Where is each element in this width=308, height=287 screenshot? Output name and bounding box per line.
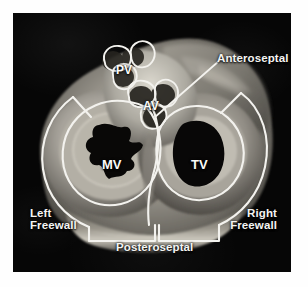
tricuspid-valve-orifice (173, 121, 224, 187)
label-aortic-valve: AV (143, 99, 159, 113)
label-anteroseptal: Anteroseptal (217, 52, 289, 64)
label-posteroseptal: Posteroseptal (116, 241, 193, 253)
label-mitral-valve: MV (102, 157, 122, 172)
specimen-photograph: Anteroseptal Posteroseptal Left Freewall… (13, 13, 291, 272)
label-pulmonary-valve: PV (116, 63, 132, 77)
label-tricuspid-valve: TV (191, 157, 208, 172)
label-left-freewall: Left Freewall (30, 207, 77, 232)
label-right-freewall: Right Freewall (230, 207, 277, 232)
figure-page: Anteroseptal Posteroseptal Left Freewall… (0, 0, 308, 287)
